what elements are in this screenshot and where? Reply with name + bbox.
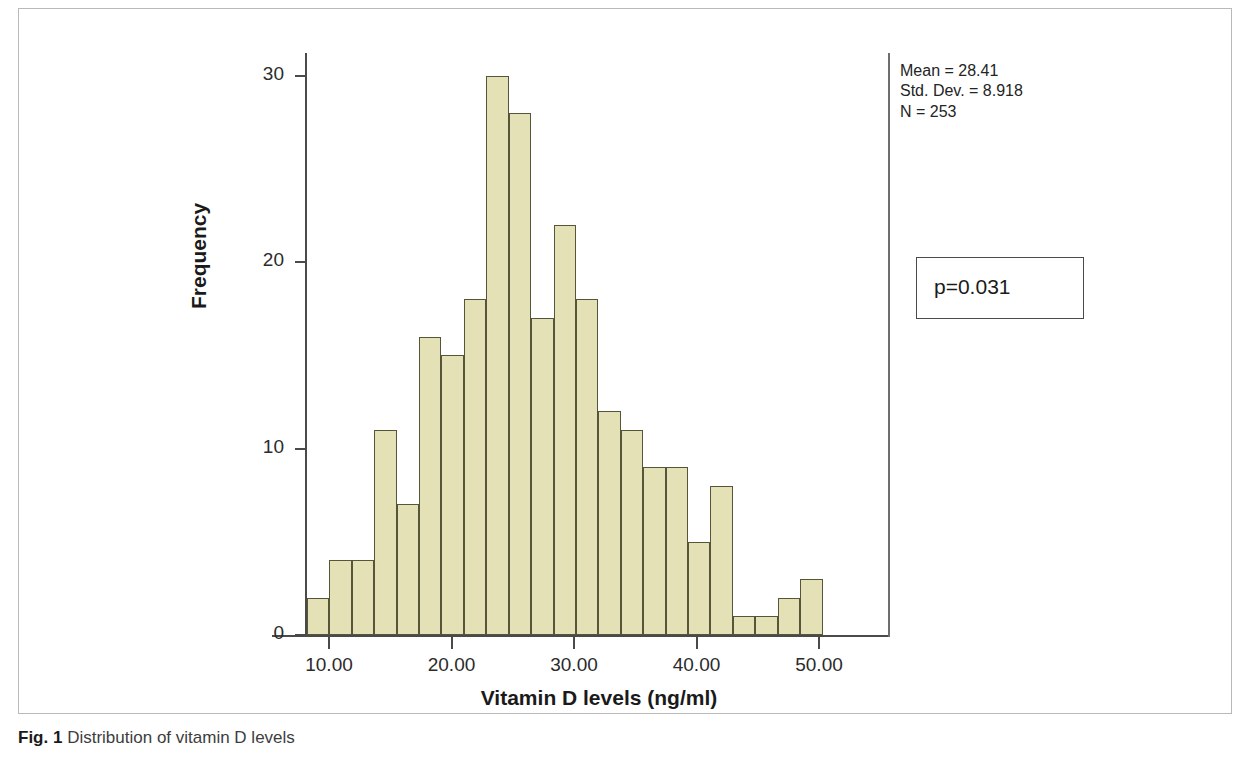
figure-frame: 0102030 10.0020.0030.0040.0050.00 Freque… [18,8,1232,714]
figure-caption-text: Distribution of vitamin D levels [67,728,295,747]
histogram-bar [666,467,688,635]
x-axis-tick-label: 30.00 [514,654,634,676]
histogram-bar [329,560,351,635]
histogram-bar [554,225,576,635]
histogram-bar [643,467,665,635]
figure-page: 0102030 10.0020.0030.0040.0050.00 Freque… [0,0,1250,764]
figure-caption-label: Fig. 1 [18,728,62,747]
histogram-bar [486,76,508,635]
x-axis-tick [328,637,330,649]
histogram-bar [733,616,755,635]
histogram-bar [509,113,531,635]
histogram-bar [419,337,441,635]
histogram-bar [441,355,463,635]
x-axis-title: Vitamin D levels (ng/ml) [309,686,889,710]
histogram-bar [755,616,777,635]
histogram-bar [800,579,822,635]
stat-sample-size: N = 253 [900,102,1023,122]
histogram-bar [531,318,553,635]
histogram-bar [397,504,419,635]
p-value-box: p=0.031 [916,257,1084,319]
x-axis-tick [573,637,575,649]
figure-caption: Fig. 1 Distribution of vitamin D levels [18,728,1218,748]
histogram-bar [710,486,732,635]
bars-container [19,57,1233,635]
x-axis-tick-label: 40.00 [637,654,757,676]
histogram-bar [464,299,486,635]
histogram-bar [621,430,643,635]
histogram-bar [778,598,800,635]
histogram-bar [576,299,598,635]
histogram-bar [688,542,710,635]
x-axis-tick-label: 10.00 [269,654,389,676]
statistics-annotation: Mean = 28.41 Std. Dev. = 8.918 N = 253 [900,61,1023,122]
stat-mean: Mean = 28.41 [900,61,1023,81]
x-axis-line [272,635,890,637]
x-axis-tick [696,637,698,649]
p-value-text: p=0.031 [934,275,1011,299]
stat-std-dev: Std. Dev. = 8.918 [900,81,1023,101]
x-axis-tick-label: 50.00 [759,654,879,676]
histogram-bar [352,560,374,635]
x-axis-tick-label: 20.00 [392,654,512,676]
y-axis-title: Frequency [187,203,211,309]
histogram-bar [307,598,329,635]
histogram-bar [374,430,396,635]
x-axis-tick [451,637,453,649]
x-axis-tick [818,637,820,649]
histogram-bar [598,411,620,635]
